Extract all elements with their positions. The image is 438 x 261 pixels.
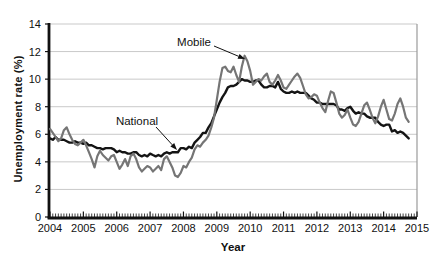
national-annotation-arrow-line (156, 127, 172, 145)
x-tick-label: 2014 (371, 222, 395, 234)
y-tick-label: 4 (35, 156, 41, 168)
x-tick-label: 2009 (205, 222, 229, 234)
x-tick-label: 2008 (171, 222, 195, 234)
x-tick-label: 2011 (272, 222, 296, 234)
x-tick-label: 2006 (104, 222, 128, 234)
y-tick-label: 10 (29, 73, 41, 85)
chart-canvas: 0246810121420042005200620072008200920102… (0, 0, 438, 261)
y-tick-label: 12 (29, 46, 41, 58)
mobile-series-label: Mobile (177, 36, 211, 48)
y-tick-label: 8 (35, 101, 41, 113)
y-tick-label: 2 (35, 183, 41, 195)
mobile-series-line (50, 56, 409, 177)
x-axis-title: Year (163, 241, 303, 253)
x-tick-label: 2013 (338, 222, 362, 234)
x-tick-label: 2004 (38, 222, 62, 234)
y-tick-label: 14 (29, 18, 41, 30)
y-axis-title: Unemployment rate (%) (12, 44, 24, 194)
x-tick-label: 2010 (238, 222, 262, 234)
y-tick-label: 6 (35, 128, 41, 140)
unemployment-line-chart: 0246810121420042005200620072008200920102… (0, 0, 438, 261)
x-tick-label: 2005 (71, 222, 95, 234)
x-tick-label: 2012 (305, 222, 329, 234)
national-series-line (50, 79, 409, 156)
national-series-label: National (116, 115, 158, 127)
x-tick-label: 2007 (138, 222, 162, 234)
x-tick-label: 2015 (405, 222, 429, 234)
